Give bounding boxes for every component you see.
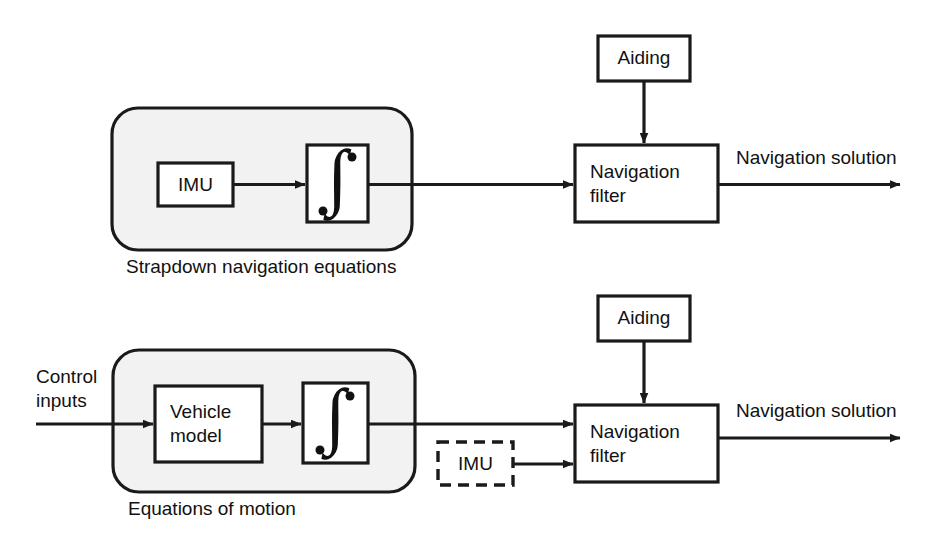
block-navigation-filter-bottom[interactable] (575, 405, 718, 482)
block-imu-dashed-label: IMU (458, 453, 493, 474)
block-navigation-filter-top-label-line2: filter (590, 185, 627, 206)
block-aiding-top-label: Aiding (618, 47, 671, 68)
block-navigation-filter-top-label-line1: Navigation (590, 161, 680, 182)
block-aiding-bottom-label: Aiding (618, 307, 671, 328)
block-imu-top-label: IMU (178, 174, 213, 195)
block-vehicle-model-label-line1: Vehicle (170, 401, 231, 422)
diagram-canvas: IMU ∫ Strapdown navigation equations Aid… (0, 0, 941, 548)
integral-top-dot-lower (319, 207, 328, 216)
block-vehicle-model[interactable] (155, 386, 262, 462)
integral-top-dot-upper (348, 153, 357, 162)
block-diagram: IMU ∫ Strapdown navigation equations Aid… (0, 0, 941, 548)
label-control-inputs-line1: Control (36, 366, 97, 387)
block-navigation-filter-bottom-label-line1: Navigation (590, 421, 680, 442)
group-caption-equations-of-motion: Equations of motion (128, 498, 296, 519)
integral-bottom-dot-upper (346, 392, 355, 401)
integral-bottom-dot-lower (316, 446, 325, 455)
label-navigation-solution-bottom: Navigation solution (736, 400, 897, 421)
label-control-inputs-line2: inputs (36, 390, 87, 411)
block-navigation-filter-top[interactable] (575, 145, 718, 222)
label-navigation-solution-top: Navigation solution (736, 147, 897, 168)
group-caption-strapdown: Strapdown navigation equations (126, 256, 396, 277)
block-vehicle-model-label-line2: model (170, 425, 222, 446)
block-navigation-filter-bottom-label-line2: filter (590, 445, 627, 466)
